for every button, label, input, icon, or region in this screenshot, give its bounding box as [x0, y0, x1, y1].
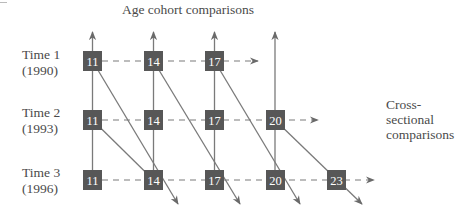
age-label: 20 — [269, 114, 282, 128]
row-3-boxes: 11 14 17 20 23 — [83, 170, 346, 190]
age-label: 17 — [208, 114, 221, 128]
age-label: 11 — [86, 114, 98, 128]
diagonal-lines — [93, 61, 363, 204]
age-label: 11 — [86, 174, 98, 188]
age-label: 14 — [147, 114, 160, 128]
age-label: 17 — [208, 55, 221, 69]
age-label: 17 — [208, 174, 221, 188]
age-label: 14 — [147, 55, 160, 69]
age-label: 14 — [147, 174, 160, 188]
diagonal-arrow — [275, 120, 362, 204]
age-label: 11 — [86, 55, 98, 69]
dashed-lines — [102, 61, 374, 180]
age-label: 20 — [269, 174, 282, 188]
age-label: 23 — [330, 174, 343, 188]
cohort-diagram: 11 14 17 11 14 17 20 11 14 17 20 23 — [0, 0, 473, 222]
